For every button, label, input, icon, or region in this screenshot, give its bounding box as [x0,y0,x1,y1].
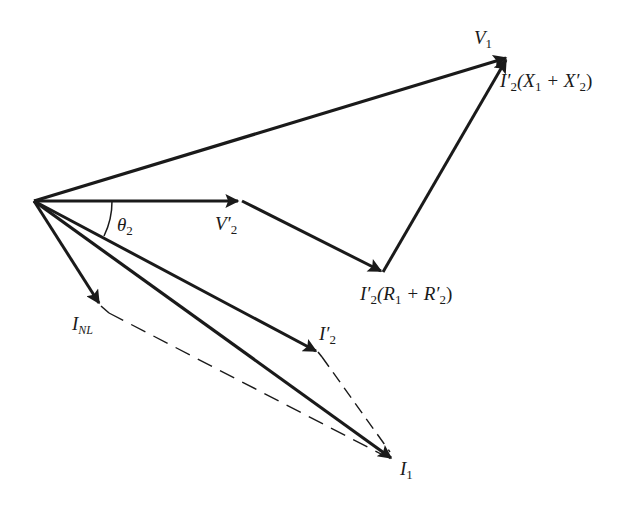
reactive-drop-phasor [383,60,506,272]
v2-prime-label: V′2 [215,213,237,237]
theta2-label: θ2 [117,214,133,238]
resistive-drop-phasor [242,201,381,271]
dashed-i2-to-i1 [322,357,390,452]
inl-tip-tick [101,306,109,313]
dashed-inl-to-i1 [109,313,385,456]
reactive-drop-label: I′2(X1 + X′2) [499,70,592,94]
i1-label: I1 [399,458,413,482]
i2-prime-label: I′2 [318,323,336,347]
i2-tip-tick [318,352,322,357]
v1-label: V1 [474,27,492,51]
no-load-current-phasor [34,201,99,303]
resistive-drop-label: I′2(R1 + R′2) [359,283,452,307]
phasor-diagram: V1 I′2(X1 + X′2) θ2 V′2 I′2(R1 + R′2) IN… [0,0,639,510]
inl-label: INL [71,313,93,337]
theta2-angle-arc [104,201,112,236]
